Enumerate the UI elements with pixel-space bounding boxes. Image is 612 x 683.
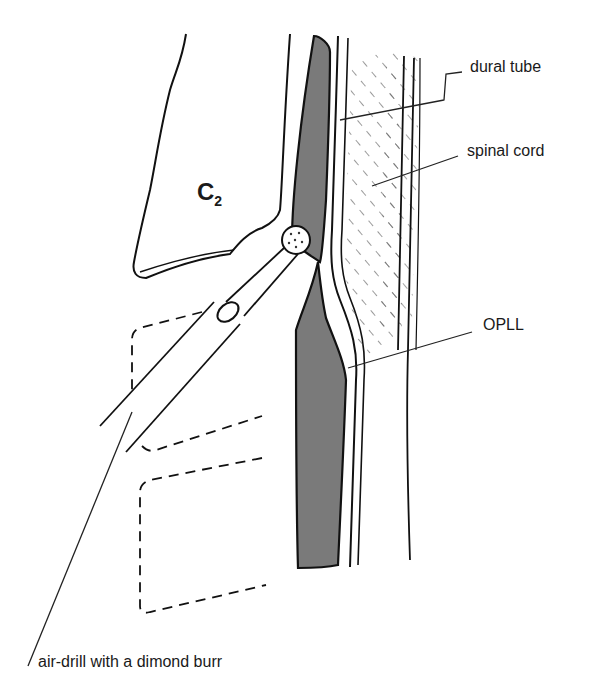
anatomy-diagram [0,0,612,683]
dural-tube-label: dural tube [470,58,541,76]
opll-label: OPLL [483,316,524,334]
c2-label-sub: 2 [214,193,222,209]
drill-sleeve-upper [100,302,214,426]
c2-label-main: C [197,178,214,205]
c4-vertebra-dashed [140,458,266,613]
c2-inferior-endplate [140,250,234,272]
drill-sleeve-lower [126,324,240,452]
drill-shaft-lower [244,254,298,316]
drill-collar [214,298,243,326]
c2-label: C2 [197,178,222,206]
c2-vertebra-outline [134,34,291,278]
drill-shaft-upper [226,248,284,302]
drill-leader [28,412,132,666]
spinal-cord-label: spinal cord [467,142,544,160]
drill-label: air-drill with a dimond burr [38,653,222,671]
c3-vertebra-dashed [132,312,262,451]
opll-lower [296,262,346,568]
